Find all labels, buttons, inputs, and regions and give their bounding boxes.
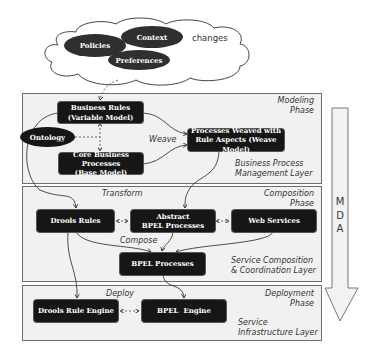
abstract-line1: Abstract bbox=[156, 212, 189, 221]
core-business-processes-node: Core Business Processes (Base Model) bbox=[59, 153, 143, 174]
deployment-phase-line1: Deployment bbox=[254, 289, 314, 299]
composition-phase-line1: Composition bbox=[250, 189, 314, 199]
modeling-phase-line1: Modeling bbox=[262, 96, 314, 106]
modeling-phase-line2: Phase bbox=[262, 106, 314, 116]
mda-letter-m: M bbox=[332, 195, 348, 209]
bpm-layer-label: Business Process Management Layer bbox=[235, 159, 313, 180]
bpel-engine-node: BPEL Engine bbox=[142, 300, 226, 322]
abstract-bpel-node: Abstract BPEL Processes bbox=[131, 210, 215, 232]
mda-label: M D A bbox=[332, 195, 348, 236]
service-composition-layer-label: Service Composition & Coordination Layer bbox=[231, 256, 316, 277]
si-layer-line1: Service bbox=[238, 318, 318, 328]
business-rules-node: Business Rules (Variable Model) bbox=[58, 102, 143, 123]
weaved-line1: Processes Weaved with bbox=[191, 126, 281, 135]
composition-phase-line2: Phase bbox=[250, 199, 314, 209]
bpm-layer-line2: Management Layer bbox=[235, 169, 313, 179]
bpel-processes-node: BPEL Processes bbox=[120, 253, 205, 275]
transform-label: Transform bbox=[102, 189, 143, 199]
weaved-line2: Rule Aspects (Weave Model) bbox=[188, 135, 284, 153]
processes-weaved-node: Processes Weaved with Rule Aspects (Weav… bbox=[188, 129, 284, 151]
drools-rule-engine-node: Drools Rule Engine bbox=[34, 300, 118, 322]
preferences-ellipse: Preferences bbox=[108, 50, 170, 70]
mda-letter-a: A bbox=[332, 222, 348, 236]
context-ellipse: Context bbox=[121, 26, 183, 48]
sc-layer-line2: & Coordination Layer bbox=[231, 266, 316, 276]
drools-rules-node: Drools Rules bbox=[37, 210, 114, 232]
modeling-phase-label: Modeling Phase bbox=[262, 96, 314, 117]
compose-label: Compose bbox=[120, 236, 157, 246]
bpm-layer-line1: Business Process bbox=[235, 159, 313, 169]
business-rules-line2: (Variable Model) bbox=[68, 113, 134, 122]
core-line2: (Base Model) bbox=[75, 168, 127, 177]
core-line1: Core Business Processes bbox=[59, 150, 143, 168]
business-rules-line1: Business Rules bbox=[71, 103, 130, 112]
sc-layer-line1: Service Composition bbox=[231, 256, 316, 266]
composition-phase-label: Composition Phase bbox=[250, 189, 314, 210]
mda-letter-d: D bbox=[332, 209, 348, 223]
ontology-ellipse: Ontology bbox=[20, 127, 75, 147]
weave-label: Weave bbox=[149, 135, 176, 145]
deploy-label: Deploy bbox=[106, 289, 134, 299]
changes-label: changes bbox=[192, 33, 228, 43]
web-services-node: Web Services bbox=[232, 210, 316, 232]
deployment-phase-label: Deployment Phase bbox=[254, 289, 314, 310]
si-layer-line2: Infrastructure Layer bbox=[238, 328, 318, 338]
service-infrastructure-layer-label: Service Infrastructure Layer bbox=[238, 318, 318, 339]
abstract-line2: BPEL Processes bbox=[142, 221, 205, 230]
deployment-phase-line2: Phase bbox=[254, 299, 314, 309]
